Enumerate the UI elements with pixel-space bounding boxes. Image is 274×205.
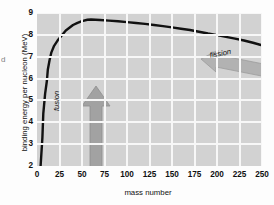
y-axis-tick-label: 6 [11,75,33,83]
y-axis-tick-label: 8 [11,31,33,39]
y-axis-tick-label: 9 [11,9,33,17]
y-axis-tick-label: 4 [11,118,33,126]
fusion-arrow-icon [81,86,111,166]
grid-line-horizontal [37,13,262,14]
y-axis-tick-label: 7 [11,53,33,61]
plot-area [37,13,262,166]
grid-line-horizontal [37,121,262,123]
binding-energy-chart-figure: d binding energy per nucleon (MeV) fusio… [0,0,274,205]
x-axis-tick-label: 250 [247,171,274,179]
grid-line-horizontal [37,34,262,36]
y-axis-tick-label: 3 [11,140,33,148]
edge-artifact-glyph: d [1,56,5,64]
grid-line-horizontal [37,78,262,80]
grid-line-horizontal [37,143,262,145]
x-axis-title: mass number [34,188,262,197]
grid-line-horizontal [37,99,262,101]
fusion-annotation-label: fusion [52,91,61,111]
y-axis-tick-label: 5 [11,96,33,104]
y-axis-tick-label: 2 [11,162,33,170]
